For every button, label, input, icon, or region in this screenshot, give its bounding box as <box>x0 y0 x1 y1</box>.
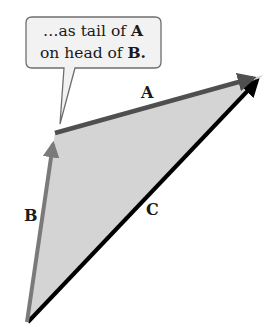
label-c: C <box>146 200 159 219</box>
callout-line-2: on head of B. <box>28 42 158 64</box>
callout-vector-b: B. <box>127 43 146 62</box>
label-a: A <box>141 83 153 102</box>
vector-diagram: …as tail of A on head of B. A B C <box>0 0 280 334</box>
callout-text: …as tail of A on head of B. <box>28 20 158 64</box>
label-b: B <box>24 206 38 225</box>
callout-vector-a: A <box>131 21 143 40</box>
callout-line-1: …as tail of A <box>28 20 158 42</box>
